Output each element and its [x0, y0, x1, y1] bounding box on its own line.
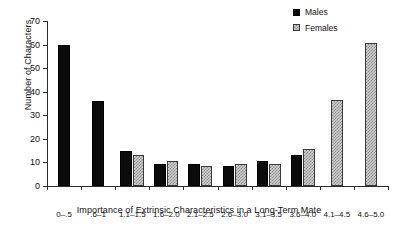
legend-item-females: Females — [293, 24, 338, 33]
x-tick — [286, 186, 287, 190]
legend-item-males: Males — [293, 8, 338, 17]
x-axis-title: Importance of Extrinsic Characteristics … — [0, 205, 398, 215]
y-tick-label: 70 — [30, 17, 40, 26]
y-tick-label: 50 — [30, 64, 40, 73]
x-tick — [388, 186, 389, 190]
x-tick — [115, 186, 116, 190]
x-tick — [354, 186, 355, 190]
x-tick — [47, 186, 48, 190]
legend-label-males: Males — [305, 8, 328, 17]
y-tick-label: 30 — [30, 111, 40, 120]
chart-legend: Males Females — [293, 8, 338, 39]
legend-label-females: Females — [305, 24, 338, 33]
legend-swatch-females-icon — [293, 24, 300, 31]
x-tick — [218, 186, 219, 190]
bar-females — [365, 43, 377, 186]
x-tick — [81, 186, 82, 190]
x-tick — [252, 186, 253, 190]
x-tick — [320, 186, 321, 190]
y-tick-label: 40 — [30, 87, 40, 96]
y-tick-label: 10 — [30, 158, 40, 167]
legend-swatch-males-icon — [293, 9, 300, 16]
bar-group — [47, 21, 388, 186]
y-tick-label: 20 — [30, 134, 40, 143]
x-tick — [183, 186, 184, 190]
chart-figure: Number of Characters 010203040506070 0–.… — [0, 0, 398, 225]
x-tick — [149, 186, 150, 190]
y-tick-label: 0 — [35, 182, 40, 191]
plot-area: 010203040506070 0–.5.6–11.1–1.51.6–2.02.… — [47, 21, 388, 186]
y-tick-label: 60 — [30, 40, 40, 49]
